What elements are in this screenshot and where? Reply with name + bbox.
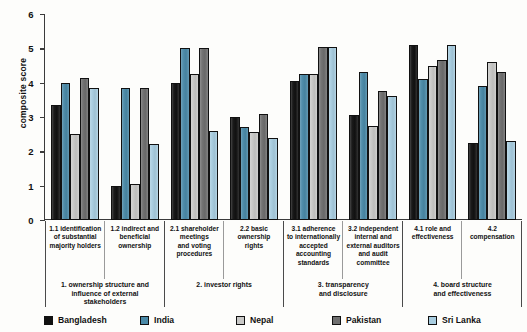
x-axis-subcategory-label: 1.2 indirect andbeneficialownership <box>105 221 165 279</box>
legend-label: Bangladesh <box>58 315 107 325</box>
bar <box>149 144 159 220</box>
bar-group <box>105 14 165 220</box>
label-line: internal and <box>345 233 401 241</box>
bar <box>428 66 438 221</box>
x-axis-subcategory-label: 2.1 shareholdermeetingsand votingprocedu… <box>165 221 225 279</box>
bar <box>290 81 300 220</box>
label-line: 4.2 compensation <box>464 225 520 242</box>
label-line: 2.1 shareholder <box>167 225 223 233</box>
y-axis-tick: 0 <box>40 220 45 221</box>
y-axis-tick: 6 <box>40 14 45 15</box>
label-line: of substantial <box>47 233 103 241</box>
y-axis-tick: 5 <box>40 48 45 49</box>
legend-swatch <box>428 316 437 325</box>
legend-label: Pakistan <box>346 315 381 325</box>
x-axis-subcategory-label: 4.1 role andeffectiveness <box>403 221 463 279</box>
label-line: 1. ownership structure and <box>45 281 164 290</box>
bar <box>309 74 319 220</box>
label-line: beneficial <box>107 233 163 241</box>
label-line: 4. board structure <box>403 281 522 290</box>
legend-swatch <box>236 316 245 325</box>
label-line: 4.1 role and <box>405 225 461 233</box>
bar <box>418 79 428 220</box>
x-axis-subcategory-label: 2.2 basicownershiprights <box>224 221 284 279</box>
bar <box>478 86 488 220</box>
bar <box>268 138 278 220</box>
legend-label: Sri Lanka <box>442 315 481 325</box>
legend-item[interactable]: India <box>140 312 236 328</box>
x-axis-group-labels: 1. ownership structure andinfluence of e… <box>45 279 522 307</box>
legend-item[interactable]: Nepal <box>236 312 332 328</box>
bar <box>368 126 378 220</box>
bar <box>506 141 516 220</box>
bar-groups <box>45 14 522 220</box>
bar <box>240 127 250 220</box>
legend-item[interactable]: Sri Lanka <box>428 312 524 328</box>
bar <box>387 96 397 220</box>
label-line: procedures <box>167 250 223 258</box>
bar <box>80 78 90 220</box>
bar <box>121 88 131 220</box>
x-axis-subcategory-label: 3.1 adherenceto internationallyaccepteda… <box>284 221 344 279</box>
bar <box>318 47 328 220</box>
label-line: committee <box>345 259 401 267</box>
y-axis-tick-label: 0 <box>28 215 33 226</box>
legend-label: India <box>154 315 174 325</box>
y-axis-tick-label: 5 <box>28 43 33 54</box>
bar <box>230 117 240 220</box>
bar <box>328 47 338 220</box>
bar <box>359 72 369 220</box>
label-line: to internationally <box>286 233 342 241</box>
bar <box>409 45 419 220</box>
label-line: rights <box>226 242 282 250</box>
bar <box>190 74 200 220</box>
bar <box>437 60 447 220</box>
y-axis-tick-label: 3 <box>28 112 33 123</box>
legend-item[interactable]: Pakistan <box>332 312 428 328</box>
bar <box>249 132 259 220</box>
label-line: 3. transparency <box>284 281 403 290</box>
label-line: 3.2 independent <box>345 225 401 233</box>
label-line: and audit <box>345 250 401 258</box>
x-axis-subcategory-label: 1.1 identificationof substantialmajority… <box>45 221 105 279</box>
label-line: accepted <box>286 242 342 250</box>
bar <box>487 62 497 220</box>
bar <box>299 74 309 220</box>
x-axis-group-label: 3. transparencyand disclosure <box>284 279 403 307</box>
label-line: ownership <box>107 242 163 250</box>
y-axis-tick-label: 6 <box>28 9 33 20</box>
y-axis-tick: 4 <box>40 83 45 84</box>
label-line: ownership <box>226 233 282 241</box>
legend-swatch <box>332 316 341 325</box>
label-line: and voting <box>167 242 223 250</box>
label-line: effectiveness <box>405 233 461 241</box>
label-line: majority holders <box>47 242 103 250</box>
bar-group <box>165 14 225 220</box>
x-axis-subcategory-label: 3.2 independentinternal andexternal audi… <box>343 221 403 279</box>
bar <box>497 72 507 220</box>
x-axis-group-label: 4. board structureand effectiveness <box>403 279 522 307</box>
bar <box>349 115 359 220</box>
y-axis-tick-label: 1 <box>28 180 33 191</box>
bar <box>61 83 71 220</box>
x-axis-subcategory-label: 4.2 compensation <box>462 221 522 279</box>
group-divider <box>521 221 522 307</box>
bar-group <box>403 14 463 220</box>
bar <box>140 88 150 220</box>
bar <box>111 186 121 220</box>
label-line: 2.2 basic <box>226 225 282 233</box>
bar-group <box>224 14 284 220</box>
label-line: external auditors <box>345 242 401 250</box>
label-line: meetings <box>167 233 223 241</box>
label-line: 2. investor rights <box>165 281 284 290</box>
bar <box>89 88 99 220</box>
legend-item[interactable]: Bangladesh <box>44 312 140 328</box>
bar <box>447 45 457 220</box>
label-line: standards <box>286 259 342 267</box>
y-axis-tick-label: 4 <box>28 77 33 88</box>
label-line: stakeholders <box>45 298 164 307</box>
bar <box>180 48 190 220</box>
x-axis-group-label: 2. investor rights <box>165 279 284 307</box>
legend-label: Nepal <box>250 315 273 325</box>
label-line: and effectiveness <box>403 290 522 299</box>
